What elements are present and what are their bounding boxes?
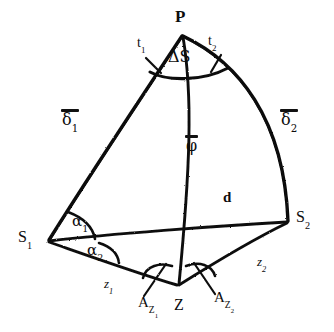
azimuth2-label: AZ2: [214, 290, 234, 307]
spherical-triangle-figure: [0, 0, 334, 332]
alpha1-label: α1: [72, 214, 88, 229]
chord-z-s2: [179, 223, 287, 285]
azimuth1-label: AZ1: [138, 295, 158, 312]
station1-label-s1: S1: [18, 229, 32, 245]
zenith-distance1-label-z1: z1: [104, 277, 113, 290]
apex-label-p: P: [175, 8, 185, 25]
edge-p-s2: [183, 36, 288, 221]
tangent-label-t1: t1: [137, 36, 145, 50]
delta2-label: δ2: [281, 110, 297, 128]
edge-p-s1-ink: [49, 37, 182, 241]
zenith-label-z: Z: [174, 297, 184, 313]
distance-label-d: d: [223, 190, 231, 205]
phi-label: φ: [186, 136, 197, 154]
alpha2-label: α2: [87, 243, 103, 258]
edge-p-s2-ink: [183, 37, 288, 222]
delta1-label: δ1: [62, 110, 78, 128]
edge-p-z: [179, 37, 189, 284]
apex-angle-label-delta-s: ΔS: [168, 49, 191, 65]
station2-label-s2: S2: [296, 209, 310, 225]
tangent-label-t2: t2: [208, 34, 216, 48]
zenith-distance2-label-z2: z2: [257, 255, 266, 268]
diagram-canvas: P t1 t2 ΔS δ1 δ2 φ d α1 α2 S1 S2 z1 z2 A…: [0, 0, 334, 332]
